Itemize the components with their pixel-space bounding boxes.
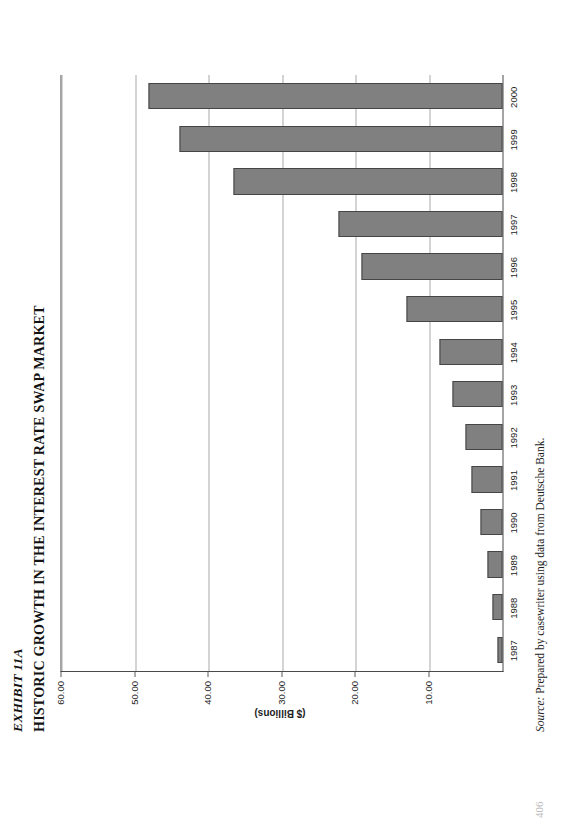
- bar: [487, 551, 502, 577]
- chart-gridline: [282, 75, 283, 671]
- category-label: 2000: [507, 76, 518, 119]
- chart-gridline: [135, 75, 136, 671]
- bar: [471, 466, 502, 492]
- category-label: 1998: [507, 161, 518, 204]
- value-axis-tick: [207, 672, 208, 677]
- chart-gridline: [61, 75, 62, 671]
- value-axis-label: 40.00: [201, 681, 212, 732]
- source-text: Prepared by casewriter using data from D…: [533, 438, 545, 697]
- value-axis-tick: [281, 672, 282, 677]
- value-axis-label: 30.00: [275, 681, 286, 732]
- bar-chart: ($ Billions) 10.0020.0030.0040.0050.0060…: [60, 75, 505, 732]
- value-axis-tick: [60, 672, 61, 677]
- chart-gridline: [355, 75, 356, 671]
- bar: [338, 211, 502, 237]
- category-label: 1990: [507, 502, 518, 545]
- bar: [406, 296, 502, 322]
- value-axis-label: 50.00: [128, 681, 139, 732]
- page-number: 406: [532, 802, 544, 819]
- bar: [480, 509, 502, 535]
- chart-plot-area: [60, 75, 503, 672]
- bar: [439, 339, 502, 365]
- exhibit-title: HISTORIC GROWTH IN THE INTEREST RATE SWA…: [31, 305, 47, 732]
- category-label: 1997: [507, 204, 518, 247]
- category-label: 1999: [507, 119, 518, 162]
- category-label: 1989: [507, 544, 518, 587]
- source-label: Source:: [533, 697, 545, 732]
- bar: [492, 594, 502, 620]
- chart-gridline: [208, 75, 209, 671]
- value-axis-tick: [354, 672, 355, 677]
- chart-gridline: [429, 75, 430, 671]
- value-axis-label: 20.00: [348, 681, 359, 732]
- category-label: 1987: [507, 629, 518, 672]
- bar: [148, 83, 502, 109]
- bar: [465, 424, 502, 450]
- category-label: 1992: [507, 417, 518, 460]
- bar: [179, 126, 502, 152]
- value-axis-label: 60.00: [54, 681, 65, 732]
- exhibit-label: EXHIBIT 11A: [9, 648, 25, 732]
- source-note: Source: Prepared by casewriter using dat…: [533, 438, 545, 732]
- bar: [233, 168, 502, 194]
- bar: [452, 381, 502, 407]
- category-label: 1995: [507, 289, 518, 332]
- exhibit-page: 406 EXHIBIT 11A HISTORIC GROWTH IN THE I…: [0, 0, 571, 830]
- value-axis-label: 10.00: [422, 681, 433, 732]
- category-label: 1988: [507, 587, 518, 630]
- bar: [497, 637, 502, 663]
- bar: [361, 253, 502, 279]
- category-label: 1991: [507, 459, 518, 502]
- category-label: 1996: [507, 246, 518, 289]
- value-axis-tick: [134, 672, 135, 677]
- value-axis-tick: [428, 672, 429, 677]
- category-label: 1993: [507, 374, 518, 417]
- category-label: 1994: [507, 331, 518, 374]
